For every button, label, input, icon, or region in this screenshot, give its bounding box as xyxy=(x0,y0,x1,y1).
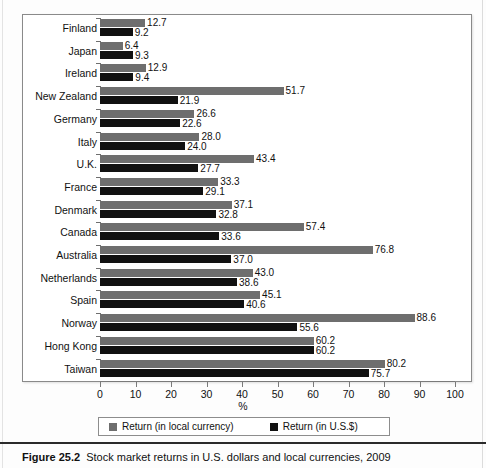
x-tick xyxy=(207,382,208,387)
category-label: Denmark xyxy=(0,201,97,219)
bar-usd xyxy=(100,119,180,127)
bar-value-local: 43.0 xyxy=(253,268,274,277)
bar-usd xyxy=(100,323,297,331)
category-label: Finland xyxy=(0,19,97,37)
bar-chart-plot-area: Finland12.79.2Japan6.49.3Ireland12.99.4N… xyxy=(0,0,486,382)
category-label: Australia xyxy=(0,246,97,264)
bar-usd xyxy=(100,28,133,36)
bar-group: Japan6.49.3 xyxy=(0,41,486,61)
bar-value-local: 57.4 xyxy=(304,222,325,231)
bar-value-local: 60.2 xyxy=(314,336,335,345)
x-tick-label: 0 xyxy=(80,388,120,400)
bar-group: Germany26.622.6 xyxy=(0,109,486,129)
category-label: Spain xyxy=(0,291,97,309)
bar-local xyxy=(100,42,123,50)
bar-group: Ireland12.99.4 xyxy=(0,63,486,83)
bar-value-local: 88.6 xyxy=(415,313,436,322)
bar-usd xyxy=(100,300,244,308)
bar-group: Norway88.655.6 xyxy=(0,313,486,333)
x-tick xyxy=(278,382,279,387)
x-tick-label: 90 xyxy=(400,388,440,400)
category-label: U.K. xyxy=(0,155,97,173)
bar-local xyxy=(100,155,254,163)
bar-value-local: 6.4 xyxy=(123,41,139,50)
bar-local xyxy=(100,178,218,186)
bar-value-local: 12.7 xyxy=(145,18,166,27)
category-label: Norway xyxy=(0,314,97,332)
category-label: Canada xyxy=(0,223,97,241)
category-label: Netherlands xyxy=(0,269,97,287)
legend-item-usd: Return (in U.S.$) xyxy=(270,421,358,432)
bar-value-usd: 27.7 xyxy=(198,164,219,173)
bar-value-usd: 40.6 xyxy=(244,300,265,309)
x-tick xyxy=(420,382,421,387)
bar-usd xyxy=(100,346,314,354)
bar-value-usd: 38.6 xyxy=(237,278,258,287)
x-axis-title: % xyxy=(0,400,486,412)
x-tick-label: 50 xyxy=(258,388,298,400)
bar-value-usd: 29.1 xyxy=(203,187,224,196)
bar-value-usd: 9.2 xyxy=(133,28,149,37)
bar-usd xyxy=(100,187,203,195)
bar-local xyxy=(100,64,146,72)
bar-group: Canada57.433.6 xyxy=(0,222,486,242)
x-tick xyxy=(171,382,172,387)
bar-local xyxy=(100,291,260,299)
bar-group: Denmark37.132.8 xyxy=(0,200,486,220)
bar-value-usd: 32.8 xyxy=(216,210,237,219)
bar-group: Italy28.024.0 xyxy=(0,132,486,152)
x-tick-label: 30 xyxy=(187,388,227,400)
bar-value-local: 12.9 xyxy=(146,63,167,72)
bar-local xyxy=(100,360,385,368)
legend-swatch-local-currency xyxy=(109,423,117,431)
x-tick-label: 20 xyxy=(151,388,191,400)
bar-value-usd: 60.2 xyxy=(314,346,335,355)
x-tick-label: 70 xyxy=(329,388,369,400)
chart-figure: Finland12.79.2Japan6.49.3Ireland12.99.4N… xyxy=(0,0,486,440)
x-tick xyxy=(349,382,350,387)
bar-local xyxy=(100,19,145,27)
bar-value-local: 51.7 xyxy=(284,86,305,95)
bar-value-local: 45.1 xyxy=(260,290,281,299)
bar-group: Hong Kong60.260.2 xyxy=(0,336,486,356)
bar-value-local: 43.4 xyxy=(254,154,275,163)
bar-local xyxy=(100,314,415,322)
category-label: Ireland xyxy=(0,64,97,82)
bar-local xyxy=(100,337,314,345)
bar-group: Netherlands43.038.6 xyxy=(0,268,486,288)
x-tick xyxy=(242,382,243,387)
legend-label-local-currency: Return (in local currency) xyxy=(122,421,234,432)
category-label: Japan xyxy=(0,42,97,60)
category-label: New Zealand xyxy=(0,87,97,105)
bar-value-usd: 9.4 xyxy=(133,73,149,82)
bar-value-local: 33.3 xyxy=(218,177,239,186)
bar-value-local: 28.0 xyxy=(199,132,220,141)
category-label: Taiwan xyxy=(0,360,97,378)
bar-usd xyxy=(100,255,231,263)
x-tick-label: 40 xyxy=(222,388,262,400)
bar-local xyxy=(100,269,253,277)
bar-group: Finland12.79.2 xyxy=(0,18,486,38)
x-tick xyxy=(313,382,314,387)
bar-value-local: 80.2 xyxy=(385,359,406,368)
legend-item-local-currency: Return (in local currency) xyxy=(109,421,234,432)
bar-usd xyxy=(100,164,198,172)
bar-value-local: 76.8 xyxy=(373,245,394,254)
legend-label-usd: Return (in U.S.$) xyxy=(283,421,358,432)
x-tick xyxy=(384,382,385,387)
bar-value-usd: 22.6 xyxy=(180,119,201,128)
bar-usd xyxy=(100,210,216,218)
figure-caption-text: Stock market returns in U.S. dollars and… xyxy=(86,451,390,463)
x-tick xyxy=(100,382,101,387)
bar-value-usd: 24.0 xyxy=(185,142,206,151)
bar-usd xyxy=(100,73,133,81)
bar-group: Taiwan80.275.7 xyxy=(0,359,486,379)
figure-caption: Figure 25.2 Stock market returns in U.S.… xyxy=(22,450,472,465)
bar-group: Spain45.140.6 xyxy=(0,290,486,310)
bar-value-usd: 75.7 xyxy=(369,369,390,378)
bar-usd xyxy=(100,232,219,240)
bar-local xyxy=(100,87,284,95)
bar-value-usd: 21.9 xyxy=(178,96,199,105)
x-tick xyxy=(136,382,137,387)
bar-value-local: 26.6 xyxy=(194,109,215,118)
